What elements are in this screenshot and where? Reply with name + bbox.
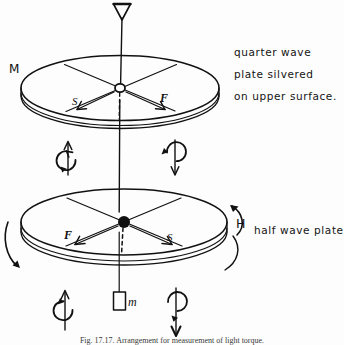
figure-caption: Fig. 17.17. Arrangement for measurement … [0, 336, 344, 345]
upper-slow-axis-arrow [77, 92, 114, 110]
spin-arrow-down-cw-icon [162, 140, 186, 175]
open-circle-node [115, 84, 125, 92]
spin-arrow-up-ccw-icon [57, 142, 76, 176]
label-mirror-M: M [9, 62, 19, 76]
quarter-wave-note-line-1: quarter wave [234, 44, 311, 61]
label-lower-slow-axis: S [167, 231, 173, 243]
label-field-H: H [236, 216, 245, 231]
curved-arrow-right-lower [225, 236, 238, 270]
lower-fast-axis-arrow [75, 226, 118, 245]
spin-arrow-down-cw-icon-lower [168, 288, 187, 336]
lower-slow-axis-arrow [130, 226, 172, 245]
half-wave-note: half wave plate [254, 222, 344, 239]
spin-arrow-up-ccw-icon-lower [54, 291, 73, 331]
lower-dashed-axis [122, 228, 124, 255]
label-mass-m: m [128, 295, 137, 310]
quarter-wave-note-line-2: plate silvered [234, 66, 314, 83]
label-upper-fast-axis: F [160, 91, 168, 106]
filled-circle-node [118, 216, 130, 228]
upper-dashed-axis [119, 93, 120, 119]
curved-arrow-down-icon [5, 222, 20, 268]
mass-block-icon [114, 292, 126, 310]
quarter-wave-note-line-3: on upper surface. [234, 88, 337, 105]
label-lower-fast-axis: F [64, 228, 72, 243]
label-upper-slow-axis: S [72, 95, 78, 107]
